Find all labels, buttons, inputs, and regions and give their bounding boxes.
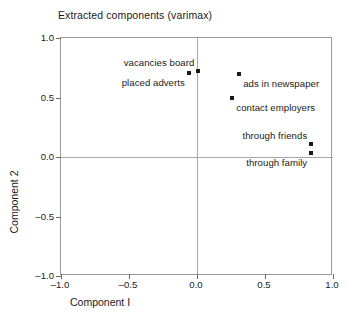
y-tick-mark <box>56 98 61 99</box>
data-point-label: through family <box>246 157 307 168</box>
x-tick-label: –1.0 <box>51 279 70 290</box>
data-point-marker <box>196 69 200 73</box>
y-tick-label: 1.0 <box>41 32 54 43</box>
data-point-label: ads in newspaper <box>243 77 319 88</box>
y-tick-mark <box>56 157 61 158</box>
y-tick-label: 0.5 <box>41 91 54 102</box>
y-axis-title: Component 2 <box>8 157 20 247</box>
y-tick-mark <box>56 217 61 218</box>
scatter-plot-figure: Extracted components (varimax) vacancies… <box>0 0 354 320</box>
data-point-label: placed adverts <box>122 76 185 87</box>
data-point-label: contact employers <box>236 101 315 112</box>
x-axis-title: Component I <box>70 296 130 308</box>
plot-area: vacancies boardplaced advertsads in news… <box>60 37 332 275</box>
data-point-marker <box>230 96 234 100</box>
x-tick-label: 0.5 <box>257 279 270 290</box>
y-axis-tick-labels: 1.00.50.0–0.5–1.0 <box>24 37 54 275</box>
y-tick-label: 0.0 <box>41 151 54 162</box>
data-point-marker <box>237 72 241 76</box>
data-point-label: vacancies board <box>124 57 195 68</box>
data-point-marker <box>187 71 191 75</box>
data-point-marker <box>309 151 313 155</box>
data-point-label: through friends <box>242 129 307 140</box>
y-tick-mark <box>56 38 61 39</box>
x-tick-label: 0.0 <box>189 279 202 290</box>
y-tick-label: –0.5 <box>35 210 54 221</box>
x-axis-tick-labels: –1.0–0.50.00.51.0 <box>60 279 332 293</box>
chart-title: Extracted components (varimax) <box>58 9 212 21</box>
x-tick-label: –0.5 <box>119 279 138 290</box>
x-tick-label: 1.0 <box>325 279 338 290</box>
data-point-marker <box>309 142 313 146</box>
